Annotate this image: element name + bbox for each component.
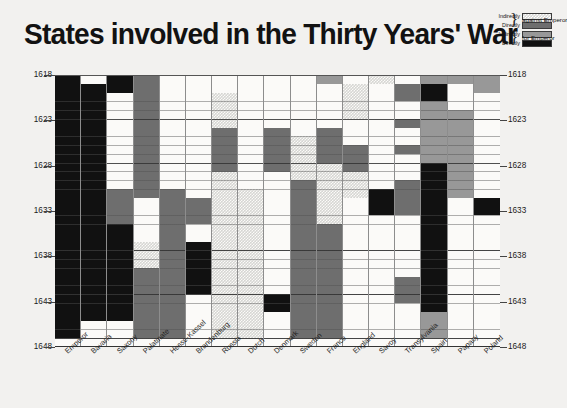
- heatmap-cell: [474, 119, 500, 128]
- heatmap-cell: [421, 101, 447, 110]
- heatmap-cell: [238, 294, 264, 303]
- heatmap-cell: [186, 119, 212, 128]
- heatmap-cell: [395, 207, 421, 216]
- heatmap-cell: [448, 110, 474, 119]
- heatmap-cell: [81, 303, 107, 312]
- heatmap-cell: [55, 163, 81, 172]
- heatmap-cell: [81, 128, 107, 137]
- heatmap-cell: [81, 180, 107, 189]
- heatmap-cell: [317, 189, 343, 198]
- heatmap-cell: [343, 321, 369, 330]
- heatmap-cell: [186, 180, 212, 189]
- heatmap-cell: [448, 294, 474, 303]
- y-axis-tick-label-right: 1638: [508, 251, 538, 260]
- heatmap-cell: [55, 145, 81, 154]
- heatmap-cell: [291, 250, 317, 259]
- heatmap-cell: [186, 294, 212, 303]
- heatmap-cell: [81, 172, 107, 181]
- heatmap-cell: [186, 303, 212, 312]
- heatmap-cell: [291, 215, 317, 224]
- heatmap-cell: [369, 242, 395, 251]
- heatmap-cell: [291, 321, 317, 330]
- heatmap-cell: [264, 215, 290, 224]
- heatmap-cell: [317, 172, 343, 181]
- heatmap-cell: [212, 242, 238, 251]
- heatmap-cell: [107, 101, 133, 110]
- heatmap-cell: [160, 172, 186, 181]
- heatmap-cell: [343, 84, 369, 93]
- heatmap-cell: [160, 250, 186, 259]
- heatmap-cell: [55, 303, 81, 312]
- heatmap-cell: [395, 233, 421, 242]
- heatmap-cell: [343, 259, 369, 268]
- heatmap-cell: [134, 198, 160, 207]
- heatmap-cell: [317, 180, 343, 189]
- heatmap-cell: [81, 145, 107, 154]
- heatmap-cell: [317, 198, 343, 207]
- heatmap-cell: [186, 215, 212, 224]
- heatmap-cell: [107, 321, 133, 330]
- heatmap-cell: [395, 101, 421, 110]
- heatmap-cell: [474, 277, 500, 286]
- heatmap-cell: [81, 84, 107, 93]
- heatmap-cell: [369, 128, 395, 137]
- heatmap-cell: [264, 198, 290, 207]
- heatmap-cell: [369, 84, 395, 93]
- heatmap-cell: [421, 233, 447, 242]
- heatmap-cell: [134, 145, 160, 154]
- heatmap-cell: [186, 286, 212, 295]
- heatmap-cell: [160, 224, 186, 233]
- heatmap-cell: [291, 207, 317, 216]
- heatmap-cell: [317, 119, 343, 128]
- heatmap-cell: [395, 321, 421, 330]
- heatmap-cell: [186, 250, 212, 259]
- heatmap-cell: [343, 277, 369, 286]
- heatmap-cell: [107, 119, 133, 128]
- heatmap-cell: [81, 277, 107, 286]
- heatmap-cell: [55, 75, 81, 84]
- heatmap-cell: [160, 294, 186, 303]
- heatmap-cell: [107, 198, 133, 207]
- heatmap-cell: [317, 207, 343, 216]
- heatmap-cell: [81, 101, 107, 110]
- heatmap-cell: [395, 277, 421, 286]
- heatmap-cell: [186, 110, 212, 119]
- heatmap-cell: [238, 233, 264, 242]
- heatmap-cell: [343, 294, 369, 303]
- heatmap-cell: [186, 189, 212, 198]
- heatmap-cell: [186, 154, 212, 163]
- heatmap-cell: [55, 93, 81, 102]
- heatmap-cell: [421, 207, 447, 216]
- heatmap-cell: [264, 172, 290, 181]
- heatmap-cell: [343, 233, 369, 242]
- heatmap-cell: [107, 259, 133, 268]
- heatmap-cell: [317, 163, 343, 172]
- heatmap-cell: [291, 259, 317, 268]
- heatmap-cell: [343, 268, 369, 277]
- heatmap-cell: [448, 136, 474, 145]
- heatmap-cell: [421, 224, 447, 233]
- heatmap-cell: [160, 189, 186, 198]
- heatmap-cell: [369, 268, 395, 277]
- heatmap-cell: [55, 110, 81, 119]
- heatmap-cell: [264, 154, 290, 163]
- heatmap-cell: [81, 207, 107, 216]
- heatmap-cell: [134, 303, 160, 312]
- heatmap-cell: [238, 110, 264, 119]
- heatmap-cell: [238, 101, 264, 110]
- heatmap-cell: [55, 321, 81, 330]
- heatmap-cell: [55, 250, 81, 259]
- heatmap-cell: [448, 207, 474, 216]
- heatmap-cell: [264, 286, 290, 295]
- heatmap-cell: [448, 163, 474, 172]
- heatmap-cell: [474, 207, 500, 216]
- heatmap-cell: [264, 180, 290, 189]
- heatmap-cell: [81, 259, 107, 268]
- heatmap-cell: [55, 128, 81, 137]
- heatmap-cell: [55, 312, 81, 321]
- heatmap-cell: [55, 286, 81, 295]
- heatmap-cell: [238, 75, 264, 84]
- heatmap-cell: [55, 259, 81, 268]
- heatmap-cell: [134, 93, 160, 102]
- heatmap-cell: [264, 75, 290, 84]
